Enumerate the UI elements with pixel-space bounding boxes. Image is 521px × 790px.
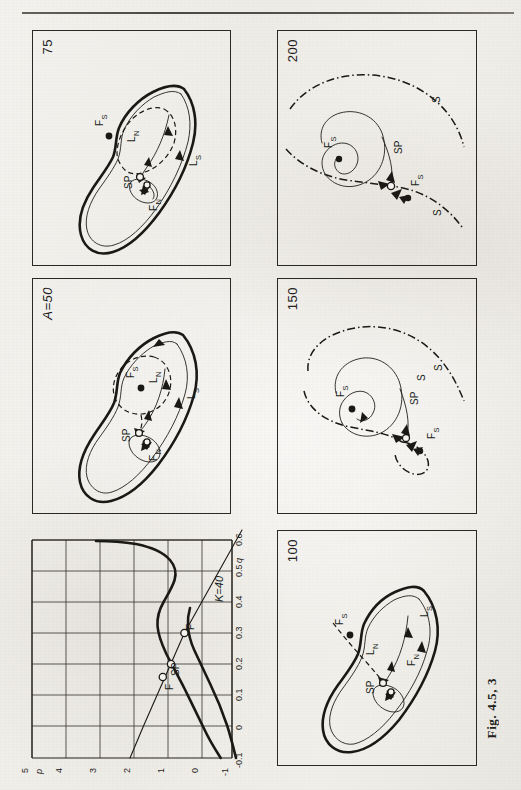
page-header-rule <box>22 12 514 14</box>
q-tick-06: 0.6 <box>234 533 244 546</box>
q-tick-04: 0.4 <box>234 595 244 608</box>
panel-50-figure: F S L N L S SP F N <box>33 279 232 515</box>
label-L-S-outer-sub: S <box>192 388 201 393</box>
label-SP: SP <box>365 680 376 694</box>
p-tick-3: 3 <box>88 768 98 773</box>
label-F-S-outer-sub: S <box>432 427 441 432</box>
label-F-S-outer: F <box>410 180 421 186</box>
marker-F-N <box>144 182 150 188</box>
p-tick-1: 1 <box>156 768 166 773</box>
marker-F-S <box>138 385 145 392</box>
p-tick-5: 5 <box>20 768 30 773</box>
label-SP: SP <box>121 428 132 442</box>
chart-K40-svg: K=40 F SP F 5 p 4 3 2 1 0 -1 0.6 0.5 q 0… <box>18 530 258 786</box>
label-F-S: F <box>94 120 105 126</box>
label-F-S-sub: S <box>340 613 349 618</box>
marker-F-S-outer <box>417 448 423 454</box>
marker-SP <box>387 182 394 189</box>
marker-F-S-outer <box>405 195 411 201</box>
q-tick-01: 0.1 <box>234 688 244 701</box>
q-tick-05: 0.5 <box>234 564 244 577</box>
label-S-lower: S <box>432 209 443 216</box>
label-F-N: F <box>148 455 159 461</box>
label-F-S-outer-sub: S <box>416 174 425 179</box>
marker-F-N <box>388 689 394 695</box>
label-S-upper: S <box>431 96 442 103</box>
marker-F-lower <box>159 673 166 680</box>
label-F-S-inner: F <box>323 142 334 148</box>
q-tick-03: 0.3 <box>234 626 244 639</box>
marker-SP <box>137 174 144 181</box>
label-F-S-inner: F <box>335 391 346 397</box>
panel-200: 200 F S F S SP S S <box>277 30 477 266</box>
label-S-upper: S <box>433 364 444 371</box>
marker-F-S <box>106 133 113 140</box>
marker-SP <box>403 435 410 442</box>
label-SP: SP <box>123 175 134 189</box>
label-L-N-sub: N <box>371 644 380 649</box>
chart-ylabel: p <box>34 769 44 775</box>
label-F-S-inner-sub: S <box>329 136 338 141</box>
label-F-upper: F <box>185 624 196 630</box>
panel-150-figure: F S F S SP S S <box>278 279 478 515</box>
figure-caption: Fig. 4.5, 3 <box>484 678 500 738</box>
label-F-lower: F <box>164 684 175 690</box>
label-F-N: F <box>148 205 159 211</box>
label-L-N-sub: N <box>154 372 163 377</box>
panel-150: 150 F S F S SP S S <box>277 278 477 514</box>
panel-200-figure: F S F S SP S S <box>278 31 478 267</box>
panel-chart-K40: K=40 F SP F 5 p 4 3 2 1 0 -1 0.6 0.5 q 0… <box>18 530 258 786</box>
label-SP: SP <box>409 391 420 405</box>
label-F-N-sub: N <box>412 654 421 659</box>
chart-q-ticklabels: 0.6 0.5 q 0.4 0.3 0.2 0.1 0 -0.1 <box>234 533 244 768</box>
label-F-N-sub: N <box>154 199 163 204</box>
label-L-S-sub: S <box>425 606 434 611</box>
panel-100-figure: F S L N L S SP F N <box>278 531 478 767</box>
p-tick-2: 2 <box>122 768 132 773</box>
label-F-S-inner-sub: S <box>341 385 350 390</box>
label-F-S-sub: S <box>100 114 109 119</box>
label-F-S: F <box>334 619 345 625</box>
p-tick-4: 4 <box>54 768 64 773</box>
label-F-N-sub: N <box>154 449 163 454</box>
chart-xlabel: q <box>234 558 244 563</box>
label-F-N: F <box>406 660 417 666</box>
q-tick-02: 0.2 <box>234 657 244 670</box>
marker-SP <box>136 430 143 437</box>
q-tick-neg01: -0.1 <box>234 752 244 768</box>
annotation-K40: K=40 <box>213 575 225 602</box>
label-S-lower: S <box>416 374 427 381</box>
panel-100: 100 F S L N L S SP F <box>277 530 477 766</box>
p-tick-neg1: -1 <box>220 768 230 776</box>
label-F-S: F <box>125 372 136 378</box>
marker-F-S <box>347 632 354 639</box>
panel-75: 75 F S L N L S <box>32 30 231 266</box>
panel-50: A=50 F S L N L S SP <box>32 278 231 514</box>
label-L-N-sub: N <box>132 131 141 136</box>
label-F-S-outer: F <box>426 433 437 439</box>
p-tick-0: 0 <box>190 768 200 773</box>
label-L-S-sub: S <box>194 155 203 160</box>
q-tick-0: 0 <box>234 725 244 730</box>
label-F-S-sub: S <box>131 366 140 371</box>
marker-F-N <box>144 439 150 445</box>
marker-F-S-inner <box>349 406 356 413</box>
marker-F-S-inner <box>336 156 342 162</box>
chart-p-ticklabels: 5 p 4 3 2 1 0 -1 <box>20 768 230 776</box>
marker-SP <box>380 680 387 687</box>
label-SP: SP <box>170 662 181 676</box>
panel-75-figure: F S L N L S SP F N <box>33 31 232 267</box>
label-SP: SP <box>393 140 404 154</box>
